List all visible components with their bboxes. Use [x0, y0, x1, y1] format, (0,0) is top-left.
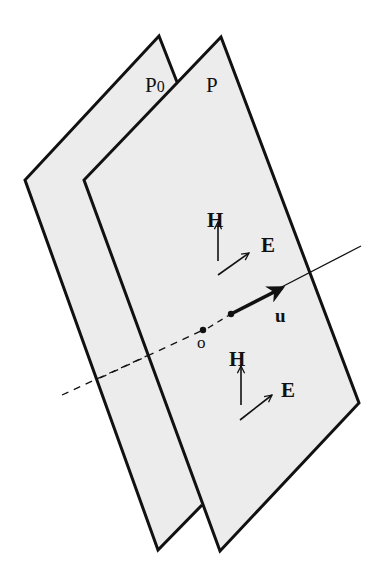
- h-label-upper: H: [207, 208, 223, 232]
- origin-label: o: [197, 333, 206, 352]
- h-label-lower: H: [229, 347, 245, 371]
- u-label: u: [275, 305, 286, 326]
- e-label-lower: E: [281, 378, 295, 402]
- e-label-upper: E: [261, 233, 275, 257]
- plane-p-label: P: [206, 73, 218, 97]
- wave-plane-diagram: P0 P o u H E: [0, 0, 383, 581]
